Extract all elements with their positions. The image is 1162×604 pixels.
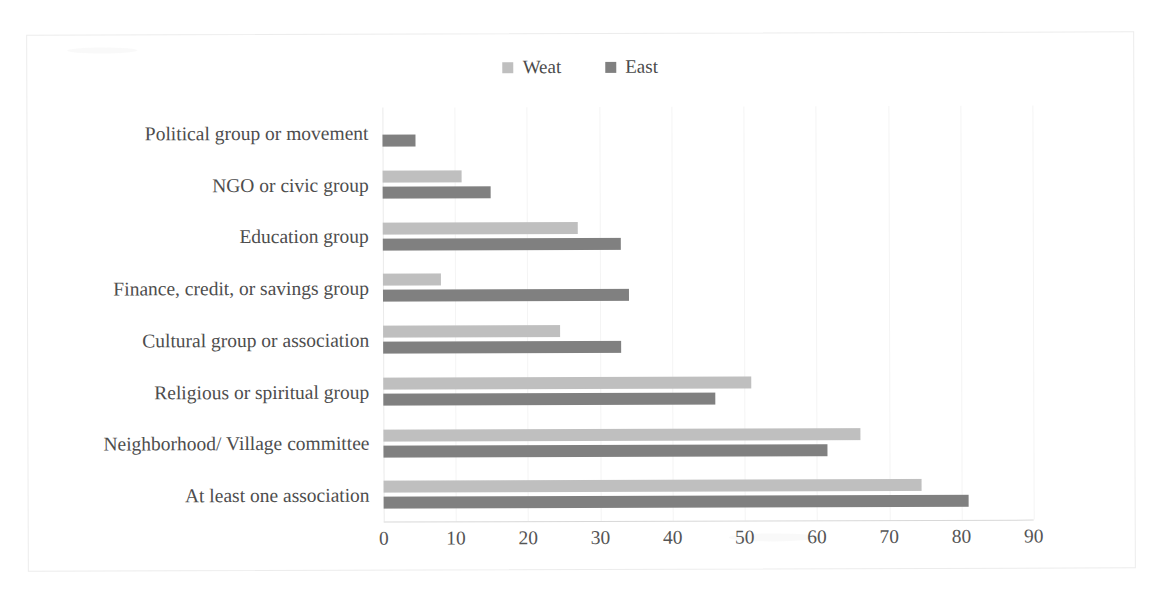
chart-container: Weat East Political group or movementNGO… bbox=[26, 31, 1136, 571]
bar-group bbox=[383, 313, 1033, 367]
x-axis-tick-40: 40 bbox=[663, 527, 683, 549]
y-axis-labels: Political group or movementNGO or civic … bbox=[27, 108, 378, 523]
scan-top-artifact bbox=[0, 0, 1162, 16]
bar-group bbox=[384, 468, 1034, 522]
legend-label-weat: Weat bbox=[523, 56, 562, 78]
bar-group bbox=[383, 209, 1033, 263]
bar-group bbox=[383, 157, 1033, 211]
bar-east bbox=[383, 341, 621, 354]
bar-east bbox=[384, 495, 969, 509]
bar-east bbox=[383, 392, 715, 405]
x-axis-tick-80: 80 bbox=[952, 526, 972, 548]
bar-east bbox=[382, 135, 415, 147]
x-axis-tick-10: 10 bbox=[446, 527, 466, 549]
y-axis-label: Education group bbox=[239, 211, 369, 263]
bar-group bbox=[383, 364, 1033, 418]
scan-blotch bbox=[67, 47, 137, 53]
bar-weat bbox=[383, 222, 578, 235]
x-axis-tick-0: 0 bbox=[379, 528, 389, 550]
x-axis-tick-90: 90 bbox=[1024, 526, 1044, 548]
y-axis-label: Cultural group or association bbox=[142, 315, 369, 367]
y-axis-label: Finance, credit, or savings group bbox=[113, 263, 369, 316]
bar-weat bbox=[383, 376, 751, 389]
bar-weat bbox=[384, 479, 922, 493]
x-axis-tick-70: 70 bbox=[880, 526, 900, 548]
legend-entry-weat: Weat bbox=[503, 56, 562, 78]
legend-label-east: East bbox=[625, 56, 658, 78]
bar-group bbox=[383, 416, 1033, 470]
legend-swatch-weat bbox=[503, 62, 514, 73]
y-axis-label: NGO or civic group bbox=[212, 159, 369, 211]
x-axis-tick-20: 20 bbox=[518, 527, 538, 549]
legend-swatch-east bbox=[605, 61, 616, 72]
x-axis-tick-50: 50 bbox=[735, 526, 755, 548]
bar-group bbox=[383, 261, 1033, 315]
chart-legend: Weat East bbox=[27, 54, 1133, 79]
y-axis-label: At least one association bbox=[185, 470, 370, 522]
legend-entry-east: East bbox=[605, 56, 658, 78]
bar-east bbox=[383, 186, 491, 198]
y-axis-label: Neighborhood/ Village committee bbox=[103, 418, 369, 471]
bar-east bbox=[383, 444, 827, 457]
bar-weat bbox=[383, 170, 462, 182]
bar-weat bbox=[383, 428, 860, 441]
y-axis-label: Religious or spiritual group bbox=[154, 366, 369, 418]
bar-weat bbox=[383, 274, 441, 286]
bar-east bbox=[383, 289, 629, 302]
bar-weat bbox=[383, 325, 560, 338]
bar-group bbox=[382, 106, 1032, 160]
x-axis-tick-60: 60 bbox=[807, 526, 827, 548]
x-axis-tick-30: 30 bbox=[591, 527, 611, 549]
plot-area bbox=[382, 106, 1033, 522]
y-axis-label: Political group or movement bbox=[145, 108, 369, 160]
bar-east bbox=[383, 237, 621, 250]
x-axis-labels: 0102030405060708090 bbox=[384, 526, 1034, 562]
